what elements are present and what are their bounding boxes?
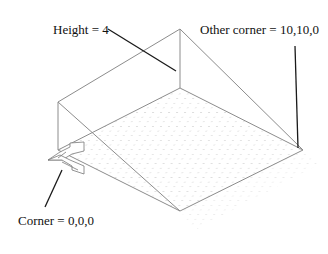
grid-plane [58, 88, 303, 211]
other-corner-leader [295, 46, 298, 148]
diagram-canvas: Height = 4 Other corner = 10,10,0 Corner… [0, 0, 328, 254]
height-leader [108, 29, 176, 71]
corner-label: Corner = 0,0,0 [18, 214, 94, 227]
other-corner-label: Other corner = 10,10,0 [200, 23, 319, 36]
height-label: Height = 4 [53, 23, 109, 36]
corner-leader [45, 170, 62, 207]
